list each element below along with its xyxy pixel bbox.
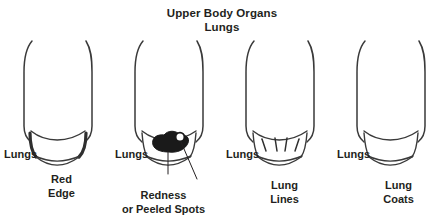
organ-label-lungs: Lungs (4, 148, 37, 161)
lung-bowl-top-arc (364, 131, 418, 140)
torso-right-outline (85, 41, 92, 142)
panel-caption-redness: Redness or Peeled Spots (108, 188, 219, 215)
title-line-2: Lungs (0, 20, 444, 34)
red-edge-marking (30, 133, 86, 157)
panel-lung-coats: Lungs Lung Coats (333, 38, 444, 215)
panel-caption-red-edge: Red Edge (6, 172, 117, 200)
torso-right-outline (196, 41, 203, 142)
lung-bowl-right-edge (190, 133, 196, 157)
caption-line-2: Lines (229, 192, 340, 206)
torso-left-outline (357, 41, 365, 142)
panel-caption-lung-lines: Lung Lines (229, 178, 340, 206)
panel-caption-lung-coats: Lung Coats (343, 178, 444, 206)
torso-left-outline (24, 41, 32, 142)
caption-line-2: Coats (343, 192, 444, 206)
torso-left-outline (246, 41, 254, 142)
organ-label-lungs: Lungs (226, 148, 259, 161)
caption-line-1: Lung (229, 178, 340, 192)
diagram-title: Upper Body Organs Lungs (0, 6, 444, 34)
organ-label-lungs: Lungs (337, 148, 370, 161)
caption-line-1: Red (6, 172, 117, 186)
lung-bowl-right-edge (301, 133, 307, 157)
caption-line-2: Edge (6, 186, 117, 200)
panel-redness-peeled-spots: Lungs Redness or Peeled Spots (111, 38, 222, 215)
panel-red-edge: Lungs Red Edge (0, 38, 111, 215)
panel-lung-lines: Lungs Lung Lines (222, 38, 333, 215)
caption-line-1: Redness (108, 188, 219, 202)
torso-right-outline (307, 41, 314, 142)
caption-line-1: Lung (343, 178, 444, 192)
caption-line-2: or Peeled Spots (108, 202, 219, 215)
lung-diagram: Upper Body Organs Lungs Lungs Red Edge (0, 0, 444, 215)
torso-right-outline (418, 41, 425, 142)
torso-left-outline (135, 41, 143, 142)
organ-label-lungs: Lungs (115, 148, 148, 161)
lung-bowl-right-edge (412, 133, 418, 157)
peeled-spot-ring (176, 133, 185, 142)
lung-bowl-top-arc (31, 131, 85, 140)
title-line-1: Upper Body Organs (0, 6, 444, 20)
